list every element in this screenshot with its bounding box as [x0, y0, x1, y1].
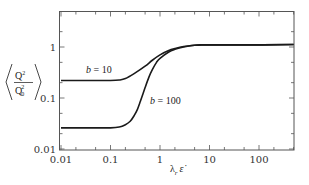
y-axis-label-denominator: Q02 — [15, 84, 24, 97]
annotation-b-100: b = 100 — [150, 95, 181, 106]
x-tick-label: 0.1 — [103, 154, 119, 165]
y-den-sub: 0 — [21, 91, 24, 97]
y-axis-label: Q2 Q02 — [6, 64, 41, 100]
annotation-b-10: b = 10 — [86, 64, 112, 75]
y-den-sup: 2 — [21, 84, 24, 90]
left-angle-bracket-icon — [6, 64, 12, 100]
y-tick-label: 1 — [50, 42, 56, 53]
curve-b-10 — [61, 44, 294, 80]
x-tick-label: 1 — [157, 154, 163, 165]
x-axis-label-rate: ε̇ — [180, 163, 187, 174]
x-axis-tick-labels: 0.010.1110100 — [50, 154, 269, 165]
y-axis-label-numerator: Q2 — [15, 70, 25, 81]
x-tick-label: 10 — [203, 154, 216, 165]
chart: 0.010.1110100 0.010.11 b = 10 b = 100 λr… — [0, 0, 309, 185]
x-tick-label: 100 — [249, 154, 268, 165]
y-num-sup: 2 — [22, 70, 25, 76]
curve-b-100 — [61, 44, 294, 127]
annotation-b-100-value: = 100 — [155, 95, 181, 106]
y-tick-label: 0.1 — [40, 93, 56, 104]
x-axis-label: λrε̇ — [170, 163, 187, 177]
y-axis-tick-labels: 0.010.11 — [34, 42, 56, 155]
y-tick-label: 0.01 — [34, 144, 56, 155]
x-axis-label-sub: r — [175, 169, 178, 177]
annotation-b-10-value: = 10 — [91, 64, 112, 75]
x-tick-label: 0.01 — [50, 154, 72, 165]
